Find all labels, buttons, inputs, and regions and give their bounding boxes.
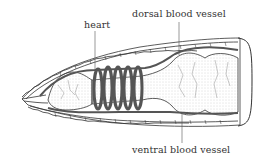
- earthworm-diagram: heart dorsal blood vessel ventral blood …: [0, 0, 269, 167]
- heart-label: heart: [84, 19, 110, 30]
- earthworm-illustration: [0, 0, 269, 167]
- ventral-blood-vessel-label: ventral blood vessel: [132, 144, 230, 155]
- dorsal-blood-vessel-label: dorsal blood vessel: [132, 8, 226, 19]
